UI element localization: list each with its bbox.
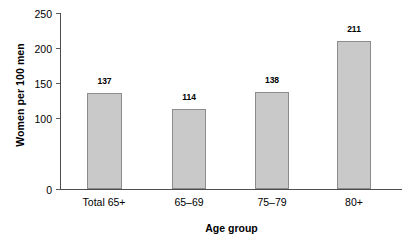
bar-value-label: 138 xyxy=(265,76,279,85)
y-tick-label-250: 250 xyxy=(24,9,52,19)
bar-value-label: 211 xyxy=(347,25,361,34)
bar-value-label: 137 xyxy=(97,77,111,86)
x-tick-label-65-69: 65–69 xyxy=(174,196,203,208)
bar-chart: Women per 100 men 250 200 150 100 0 137 … xyxy=(0,0,412,246)
x-axis-line xyxy=(60,189,402,190)
bar-value-label: 114 xyxy=(182,93,196,102)
x-tick-label-75-79: 75–79 xyxy=(257,196,286,208)
bar-75-79[interactable] xyxy=(255,92,289,189)
bar-80-plus[interactable] xyxy=(337,41,371,190)
bar-total-65-plus[interactable] xyxy=(87,93,122,189)
bar-group-65-69: 114 xyxy=(172,13,206,189)
plot-area: 137 114 138 211 xyxy=(61,13,402,189)
x-tick-label-total-65-plus: Total 65+ xyxy=(83,196,126,208)
x-axis-tick-labels: Total 65+ 65–69 75–79 80+ xyxy=(61,196,402,212)
x-axis-title: Age group xyxy=(61,222,402,235)
y-tick-label-200: 200 xyxy=(24,44,52,54)
bar-group-80-plus: 211 xyxy=(337,13,371,189)
y-tick-label-100: 100 xyxy=(24,114,52,124)
y-tick-label-0: 0 xyxy=(24,185,52,195)
y-axis-tick-labels: 250 200 150 100 0 xyxy=(24,0,52,246)
bar-group-75-79: 138 xyxy=(255,13,289,189)
bar-group-total-65-plus: 137 xyxy=(87,13,122,189)
y-tick-label-150: 150 xyxy=(24,79,52,89)
x-tick-label-80-plus: 80+ xyxy=(345,196,363,208)
bar-65-69[interactable] xyxy=(172,109,206,189)
